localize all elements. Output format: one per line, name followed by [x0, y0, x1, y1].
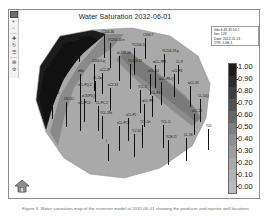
well-label: xC2-2P: [100, 69, 110, 72]
well-bottom-hole-marker: [52, 117, 54, 119]
well-label: Y02-: [206, 125, 213, 128]
colorbar-swatch: [229, 76, 236, 88]
well-bottom-hole-marker: [168, 163, 170, 165]
colorbar-swatch: [229, 134, 236, 146]
well-label: YCL-5n: [140, 121, 151, 124]
colorbar-tick-mark: [236, 103, 238, 104]
colorbar-tick-label: 0.90: [238, 75, 253, 83]
well-trajectory-line: [178, 65, 179, 83]
well-label: wCL-P8-Q: [159, 78, 173, 81]
well-bottom-hole-marker: [66, 125, 68, 127]
well-trajectory-line: [142, 125, 143, 147]
colorbar-ticks: 1.000.900.800.700.600.500.400.300.200.10…: [238, 59, 262, 198]
well-label: Y-2-10: [132, 130, 141, 133]
well-trajectory-line: [174, 74, 175, 96]
well-label: xCL-P4: [172, 70, 182, 73]
well-trajectory-line: [102, 73, 103, 93]
well-bottom-hole-marker: [155, 86, 157, 88]
colorbar-tick-label: 0.70: [238, 99, 253, 107]
well-trajectory-line: [140, 90, 141, 112]
layers-icon[interactable]: ☰: [10, 49, 18, 56]
well-bottom-hole-marker: [145, 57, 147, 59]
well-label: xC204-30: [117, 52, 130, 55]
well-trajectory-line: [110, 43, 111, 67]
well-label: xCL-PC4: [78, 102, 91, 105]
well-trajectory-line: [79, 41, 80, 61]
well-trajectory-line: [134, 134, 135, 156]
colorbar-tick-mark: [236, 115, 238, 116]
well-label: CL-54Q: [198, 95, 209, 98]
well-trajectory-line: [208, 129, 209, 149]
well-bottom-hole-marker: [152, 115, 154, 117]
well-label: C204-8: [77, 37, 87, 40]
well-label: YC204-10 n: [108, 39, 125, 42]
well-bottom-hole-marker: [208, 148, 210, 150]
figure-caption: Figure 5. Water saturation map of the re…: [22, 206, 270, 212]
reservoir-saturation-svg: [20, 22, 216, 189]
rotate-icon-glyph: ↻: [12, 43, 16, 48]
well-label: CL-2q: [93, 77, 101, 80]
rotate-icon[interactable]: ↻: [10, 42, 18, 49]
toolbar-divider: [10, 33, 17, 34]
colorbar-tick-label: 0.40: [238, 135, 253, 143]
well-bottom-hole-marker: [174, 95, 176, 97]
well-bottom-hole-marker: [134, 73, 136, 75]
well-bottom-hole-marker: [79, 60, 81, 62]
colorbar-swatch: [229, 111, 236, 123]
zoom-in-icon[interactable]: ⌖: [10, 18, 18, 25]
well-label: m6x: [78, 70, 84, 73]
well-trajectory-line: [95, 81, 96, 101]
well-trajectory-line: [163, 125, 164, 147]
colorbar-tick-mark: [236, 150, 238, 151]
well-bottom-hole-marker: [128, 139, 130, 141]
zoom-out-icon[interactable]: ▫: [10, 25, 18, 32]
well-label: YCL-2: [138, 86, 147, 89]
well-bottom-hole-marker: [190, 105, 192, 107]
page-title: Water Saturation 2032-06-01: [30, 13, 220, 20]
grid-toggle-icon[interactable]: ⊞: [10, 59, 18, 66]
well-label: YC204-19 g: [162, 50, 179, 53]
grid-toggle-icon-glyph: ⊞: [12, 60, 16, 65]
settings-icon-glyph: ⚙: [12, 67, 16, 72]
saturation-field: [20, 22, 216, 189]
well-trajectory-line: [145, 38, 146, 58]
well-label: XP204-: [50, 92, 60, 95]
map-view-toolbar[interactable]: ⌖▫✚↻☰⊞⚙: [9, 10, 19, 78]
colorbar-tick-label: 1.00: [238, 63, 253, 71]
colorbar-tick-mark: [236, 91, 238, 92]
well-label: xCL-PQ-2: [78, 84, 92, 87]
well-trajectory-line: [130, 64, 131, 88]
well-label: C204-5 g: [92, 60, 105, 63]
well-bottom-hole-marker: [64, 64, 66, 66]
well-label: C204-9: [62, 43, 72, 46]
well-bottom-hole-marker: [108, 159, 110, 161]
well-label: C8-11C: [64, 98, 74, 101]
well-trajectory-line: [168, 140, 169, 164]
well-trajectory-line: [52, 96, 53, 118]
colorbar-tick-label: 0.80: [238, 87, 253, 95]
colorbar-swatch: [229, 181, 236, 193]
well-bottom-hole-marker: [178, 82, 180, 84]
home-icon[interactable]: [14, 178, 30, 194]
colorbar-tick-label: 0.30: [238, 147, 253, 155]
well-trajectory-line: [108, 144, 109, 160]
well-label: C204-36: [102, 31, 114, 34]
colorbar-tick-mark: [236, 186, 238, 187]
water-saturation-map[interactable]: C204-36C204-8C204-9YC204-10 nC204-7YC204…: [20, 22, 216, 189]
well-trajectory-line: [161, 82, 162, 104]
well-label: xCL-P2: [126, 114, 136, 117]
simulation-info-box: Info 6:45 32:10.1 Iter: 123 Date: 2012-1…: [211, 26, 259, 46]
colorbar-tick-label: 0.00: [238, 183, 253, 191]
well-trajectory-line: [104, 35, 105, 57]
well-bottom-hole-marker: [142, 146, 144, 148]
pan-hand-icon[interactable]: ✚: [10, 35, 18, 42]
pointer-select-icon[interactable]: [10, 11, 18, 18]
toolbar-divider: [10, 57, 17, 58]
colorbar-tick-mark: [236, 162, 238, 163]
well-label: YC204-12: [128, 60, 142, 63]
well-label: xCL-PC2: [117, 122, 130, 125]
well-trajectory-line: [80, 106, 81, 130]
settings-icon[interactable]: ⚙: [10, 66, 18, 73]
well-label: C204-7: [143, 34, 153, 37]
map-body: [20, 22, 216, 189]
